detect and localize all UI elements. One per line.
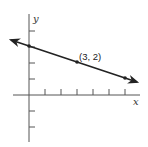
x-axis-ticks <box>45 89 125 95</box>
x-axis-label: x <box>133 96 139 107</box>
y-axis-label: y <box>32 13 39 24</box>
coordinate-plane: y x (3, 2) <box>0 0 148 147</box>
point-label: (3, 2) <box>79 51 101 62</box>
point-y-intercept <box>27 44 31 48</box>
point-6-1 <box>123 76 127 80</box>
